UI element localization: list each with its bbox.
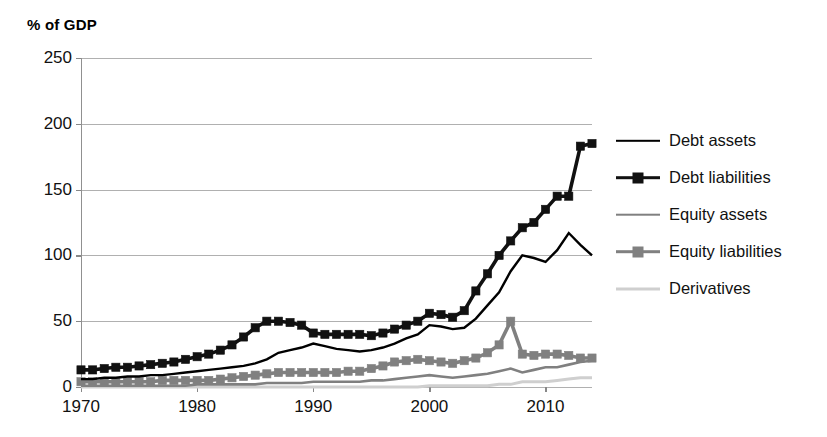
y-tick-label: 200 [8,114,72,134]
legend-label: Equity liabilities [669,242,782,261]
y-tick-label: 0 [8,377,72,397]
legend-label: Derivatives [669,279,751,298]
legend-item[interactable]: Debt assets [616,122,821,159]
x-tick-label: 1990 [294,397,332,417]
legend-swatch-icon [616,132,660,150]
legend-item[interactable]: Equity assets [616,196,821,233]
legend-swatch-icon [616,280,660,298]
y-tick-label: 100 [8,245,72,265]
x-tick-label: 1980 [178,397,216,417]
chart-figure: % of GDP 050100150200250 197019801990200… [0,0,827,437]
tickmarks [76,59,546,393]
legend-item[interactable]: Derivatives [616,270,821,307]
x-tick-label: 1970 [62,397,100,417]
series-lines [77,139,596,387]
y-tick-label: 50 [8,311,72,331]
x-tick-label: 2000 [410,397,448,417]
legend-label: Debt liabilities [669,168,771,187]
y-tick-label: 150 [8,180,72,200]
chart-legend: Debt assetsDebt liabilitiesEquity assets… [616,122,821,307]
legend-label: Equity assets [669,205,767,224]
legend-label: Debt assets [669,131,756,150]
legend-item[interactable]: Debt liabilities [616,159,821,196]
legend-item[interactable]: Equity liabilities [616,233,821,270]
legend-swatch-icon [616,243,660,261]
legend-swatch-icon [616,169,660,187]
y-axis-title: % of GDP [27,16,97,33]
x-tick-label: 2010 [527,397,565,417]
y-tick-label: 250 [8,48,72,68]
legend-swatch-icon [616,206,660,224]
